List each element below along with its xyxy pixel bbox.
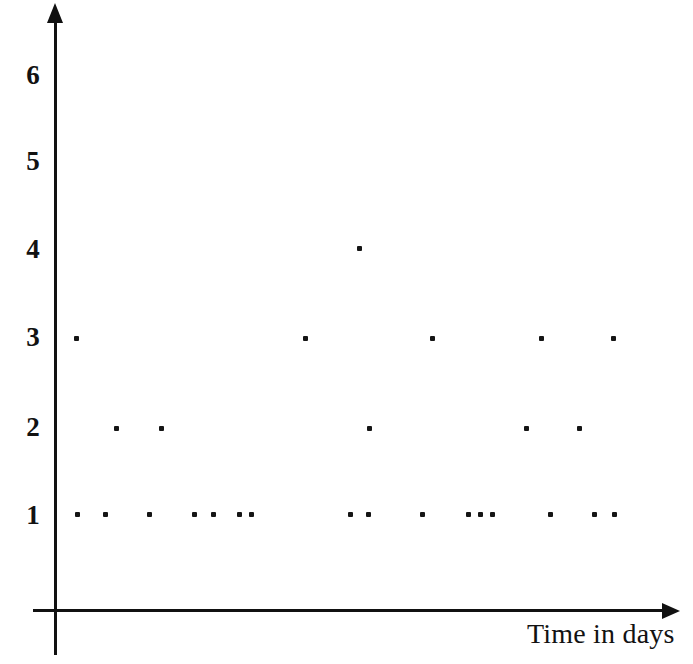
data-point [430,336,435,341]
data-point [524,426,529,431]
data-point [612,512,617,517]
data-point [611,336,616,341]
data-point [420,512,425,517]
data-point [357,246,362,251]
data-point [539,336,544,341]
data-point [237,512,242,517]
data-point [147,512,152,517]
data-point [366,512,371,517]
data-point [490,512,495,517]
data-point [367,426,372,431]
data-point [74,336,79,341]
data-point [192,512,197,517]
scatter-plot-figure: 123456 Time in days [0,0,693,664]
data-point [548,512,553,517]
data-point [466,512,471,517]
data-point [103,512,108,517]
plot-area [0,0,693,664]
data-point [478,512,483,517]
data-point [592,512,597,517]
data-point [249,512,254,517]
data-point [348,512,353,517]
data-point [75,512,80,517]
data-point [211,512,216,517]
data-point [577,426,582,431]
data-point [114,426,119,431]
data-point [303,336,308,341]
data-point [159,426,164,431]
x-axis-title: Time in days [527,618,675,650]
